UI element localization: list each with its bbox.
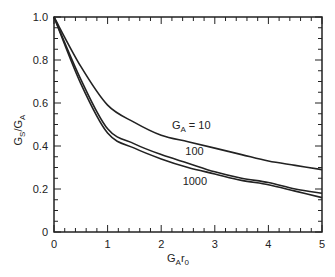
y-axis-title: GS/GA [12, 114, 27, 146]
y-tick-label: 0 [42, 226, 48, 238]
y-tick-label: 0.8 [33, 54, 48, 66]
y-tick-label: 0.6 [33, 97, 48, 109]
x-axis-title: GAr0 [167, 252, 190, 267]
x-tick-label: 3 [212, 238, 218, 250]
curve-labels: GA = 101001000 [172, 119, 211, 187]
curve-label: GA = 10 [172, 119, 211, 134]
curve-label: 100 [185, 145, 203, 157]
line-chart: 01234500.20.40.60.81.0 GA = 101001000 GA… [0, 0, 335, 277]
x-tick-label: 0 [51, 238, 57, 250]
x-tick-label: 2 [158, 238, 164, 250]
y-tick-label: 1.0 [33, 11, 48, 23]
x-tick-label: 4 [265, 238, 271, 250]
y-tick-label: 0.4 [33, 140, 48, 152]
x-tick-label: 5 [319, 238, 325, 250]
x-tick-label: 1 [105, 238, 111, 250]
curves [54, 17, 322, 198]
curve-label: 1000 [183, 175, 207, 187]
y-tick-label: 0.2 [33, 183, 48, 195]
